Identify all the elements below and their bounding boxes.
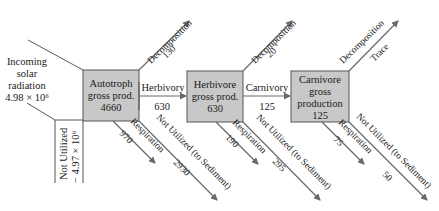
decomposition-arrow-herbivore: Decomposition 20 [243, 18, 298, 71]
svg-text:Trace: Trace [368, 41, 390, 63]
svg-text:630: 630 [154, 101, 170, 112]
svg-text:Not Utilized (to Sediment): Not Utilized (to Sediment) [254, 112, 334, 192]
herbivore-node: Herbivore gross prod. 630 [187, 71, 243, 122]
sediment-arrow-herbivore: Not Utilized (to Sediment) 295 [243, 112, 333, 200]
svg-text:− 4.97 × 10⁶: − 4.97 × 10⁶ [70, 130, 81, 183]
svg-text:Carnivore: Carnivore [299, 74, 341, 85]
svg-text:production: production [297, 98, 343, 109]
herbivory-arrow: Herbivory 630 [139, 82, 186, 112]
svg-text:4660: 4660 [101, 102, 122, 113]
svg-text:Autotroph: Autotroph [89, 78, 133, 89]
svg-text:gross prod.: gross prod. [192, 91, 239, 102]
svg-text:Decomposition: Decomposition [249, 18, 298, 66]
svg-text:Not Utilized: Not Utilized [58, 127, 69, 180]
svg-text:Decomposition: Decomposition [145, 18, 194, 66]
svg-text:Not Utilized (to Sediment): Not Utilized (to Sediment) [154, 112, 234, 192]
carnivore-node: Carnivore gross production 125 [291, 71, 349, 122]
svg-text:125: 125 [312, 110, 328, 121]
decomposition-arrow-carnivore: Decomposition Trace [337, 18, 398, 71]
svg-text:radiation: radiation [8, 80, 46, 91]
autotroph-node: Autotroph gross prod. 4660 [83, 70, 139, 121]
svg-text:Carnivory: Carnivory [246, 82, 289, 93]
svg-text:295: 295 [271, 156, 288, 173]
decomposition-arrow-autotroph: Decomposition 130 [139, 18, 194, 70]
svg-text:gross: gross [309, 86, 331, 97]
svg-text:50: 50 [381, 169, 395, 183]
sediment-arrow-carnivore: Not Utilized (to Sediment) 50 [349, 111, 433, 200]
svg-text:970: 970 [118, 128, 135, 145]
svg-text:4.98 × 10⁶: 4.98 × 10⁶ [5, 92, 49, 103]
svg-text:190: 190 [224, 132, 241, 149]
solar-input-bottom-line [27, 103, 55, 120]
svg-text:Incoming: Incoming [7, 56, 48, 67]
svg-text:2930: 2930 [172, 157, 193, 178]
solar-input-label: Incoming solar radiation 4.98 × 10⁶ [5, 56, 49, 103]
energy-flow-diagram: Incoming solar radiation 4.98 × 10⁶ Not … [0, 0, 439, 211]
svg-text:125: 125 [259, 101, 275, 112]
svg-text:630: 630 [207, 103, 223, 114]
svg-text:gross prod.: gross prod. [88, 90, 135, 101]
svg-text:Herbivory: Herbivory [141, 82, 185, 93]
carnivory-arrow: Carnivory 125 [243, 82, 290, 112]
svg-text:75: 75 [332, 134, 346, 148]
svg-text:Herbivore: Herbivore [194, 79, 237, 90]
not-utilized-input-label: Not Utilized − 4.97 × 10⁶ [58, 127, 81, 183]
svg-text:solar: solar [17, 68, 38, 79]
